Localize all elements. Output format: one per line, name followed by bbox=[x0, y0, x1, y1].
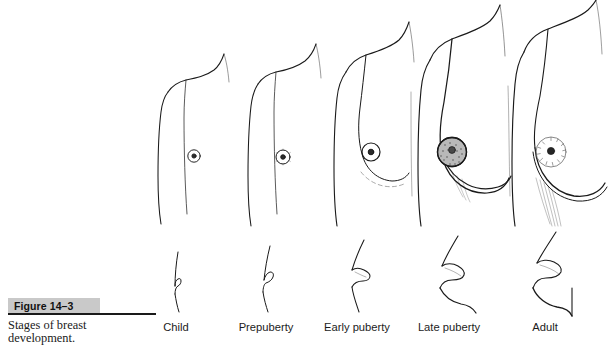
lateral-profile-early-puberty bbox=[352, 240, 370, 312]
lateral-profile-prepuberty bbox=[263, 246, 273, 312]
lateral-profile-late-puberty bbox=[440, 236, 476, 313]
stage-label-prepuberty: Prepuberty bbox=[239, 321, 294, 333]
figure-caption-block: Figure 14–3 Stages of breast development… bbox=[8, 298, 156, 346]
anterior-figure-early-puberty bbox=[334, 22, 414, 226]
stage-label-early-puberty: Early puberty bbox=[324, 321, 390, 333]
caption-divider bbox=[8, 313, 156, 315]
stage-label-adult: Adult bbox=[532, 321, 558, 333]
stage-label-child: Child bbox=[163, 321, 189, 333]
lateral-profile-adult bbox=[533, 232, 572, 316]
anterior-figure-child bbox=[158, 54, 229, 224]
anterior-figure-late-puberty bbox=[418, 5, 511, 226]
anterior-figure-adult bbox=[512, 0, 607, 226]
figure-caption-text: Stages of breast development. bbox=[8, 319, 153, 346]
figure-root: Figure 14–3 Stages of breast development… bbox=[0, 0, 610, 357]
lateral-profile-child bbox=[175, 252, 181, 312]
figure-number-band: Figure 14–3 bbox=[8, 298, 100, 313]
anterior-figure-prepuberty bbox=[248, 44, 321, 226]
figure-number-label: Figure 14–3 bbox=[14, 300, 73, 312]
stage-label-late-puberty: Late puberty bbox=[418, 321, 480, 333]
